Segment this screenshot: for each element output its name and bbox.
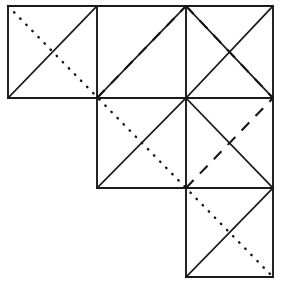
dotted-main-diagonal (8, 6, 273, 277)
geometry-diagram (0, 0, 284, 290)
solid-main-r3c3 (186, 188, 273, 277)
figure-container (0, 0, 284, 290)
dotted-line-group (8, 6, 273, 277)
solid-anti-r1c1 (8, 6, 97, 98)
